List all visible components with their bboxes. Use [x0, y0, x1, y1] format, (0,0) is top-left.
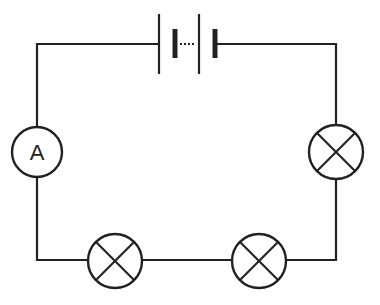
ammeter-label: A: [30, 140, 45, 165]
circuit-diagram: A: [0, 0, 380, 305]
lamp-icon-right: [309, 125, 363, 179]
lamp-icon-bottom-left: [88, 234, 142, 288]
lamp-icon-bottom-right: [232, 234, 286, 288]
wires: [36, 43, 337, 261]
ammeter-icon: A: [12, 127, 62, 177]
battery-icon: [159, 14, 215, 74]
